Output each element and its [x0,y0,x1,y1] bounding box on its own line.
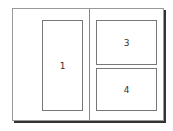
frame-label: 4 [124,85,130,95]
frame-label: 1 [60,61,66,71]
frame-1[interactable]: 1 [42,20,83,111]
frame-label: 3 [124,38,130,48]
spine-divider [89,9,90,120]
page-spread: 1 3 4 [12,8,164,121]
frame-4[interactable]: 4 [96,68,157,111]
frame-3[interactable]: 3 [96,20,157,65]
